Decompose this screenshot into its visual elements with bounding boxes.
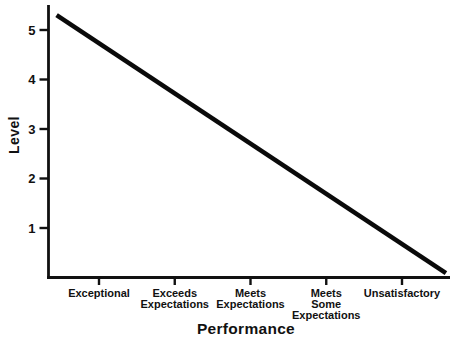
x-category-label: Exceptional xyxy=(68,287,130,299)
y-tick-label: 1 xyxy=(28,221,35,236)
chart-plot-area: 12345ExceptionalExceedsExpectationsMeets… xyxy=(0,0,457,341)
x-category-label: ExceedsExpectations xyxy=(141,287,209,310)
x-category-label: MeetsSomeExpectations xyxy=(292,287,360,321)
x-category-label: MeetsExpectations xyxy=(216,287,284,310)
performance-level-chart: 12345ExceptionalExceedsExpectationsMeets… xyxy=(0,0,457,341)
y-tick-label: 4 xyxy=(28,72,36,87)
y-tick-label: 3 xyxy=(28,122,35,137)
y-axis-title: Level xyxy=(6,116,22,154)
x-axis-title: Performance xyxy=(36,320,456,338)
trend-line xyxy=(57,15,446,273)
y-tick-label: 5 xyxy=(28,23,35,38)
x-category-label: Unsatisfactory xyxy=(364,287,441,299)
y-tick-label: 2 xyxy=(28,171,35,186)
